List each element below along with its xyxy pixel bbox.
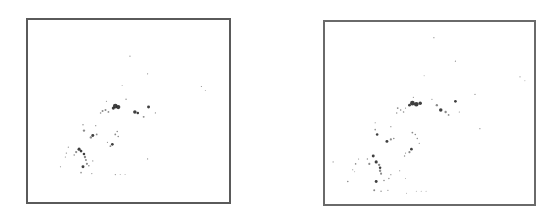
data-point [116, 131, 118, 133]
data-point [413, 97, 414, 98]
data-point [83, 153, 86, 156]
data-point [408, 151, 410, 153]
scatter-plot-left [28, 20, 229, 202]
data-point [106, 101, 107, 102]
data-point [380, 191, 381, 192]
data-point [375, 122, 376, 123]
data-point [90, 136, 92, 138]
data-point [368, 163, 370, 165]
data-point [388, 178, 389, 179]
data-point [92, 160, 93, 161]
data-point [125, 174, 126, 175]
data-point [117, 136, 119, 138]
data-point [354, 171, 355, 172]
data-point [133, 110, 137, 114]
data-point [408, 104, 411, 107]
data-point [205, 90, 206, 91]
data-point [333, 161, 334, 162]
data-point [82, 124, 83, 125]
data-point [102, 110, 104, 112]
data-point [75, 151, 77, 153]
data-point [417, 138, 418, 139]
data-point [419, 143, 420, 144]
data-point [88, 165, 90, 167]
data-point [65, 156, 66, 157]
data-point [147, 73, 148, 74]
data-point [379, 170, 381, 172]
data-point [436, 104, 438, 106]
data-point [387, 190, 388, 191]
data-point [433, 37, 434, 38]
scatter-panel-left [26, 18, 231, 204]
data-point [404, 155, 405, 156]
data-point [83, 129, 85, 131]
data-point [125, 99, 126, 100]
data-point [479, 128, 480, 129]
data-point [403, 111, 405, 113]
data-point [367, 158, 368, 159]
data-point [405, 153, 406, 154]
data-point [86, 163, 88, 165]
data-point [105, 109, 107, 111]
scatter-panel-right [323, 20, 536, 206]
data-point [372, 155, 375, 158]
data-point [155, 112, 156, 113]
data-point [410, 148, 413, 151]
data-point [96, 134, 98, 136]
data-point [524, 80, 525, 81]
data-point [459, 111, 460, 112]
data-point [95, 125, 96, 126]
data-point [91, 134, 94, 137]
data-point [444, 111, 446, 113]
data-point [406, 193, 407, 194]
data-point [405, 178, 406, 179]
data-point [418, 101, 422, 105]
data-point [439, 108, 443, 112]
data-point [68, 147, 69, 148]
data-point [378, 164, 380, 166]
data-point [347, 181, 349, 183]
data-point [100, 112, 102, 114]
data-point [421, 191, 422, 192]
data-point [73, 154, 75, 156]
data-point [519, 76, 520, 77]
data-point [396, 112, 397, 113]
data-point [82, 165, 85, 168]
data-point [376, 133, 379, 136]
data-point [122, 85, 123, 86]
data-point [379, 167, 382, 170]
data-point [91, 173, 92, 174]
data-point [375, 160, 378, 163]
data-point [414, 102, 419, 107]
data-point [426, 191, 427, 192]
data-point [405, 108, 406, 109]
data-point [129, 56, 130, 57]
data-point [66, 152, 67, 153]
data-point [383, 180, 385, 182]
data-point [147, 158, 148, 159]
data-point [397, 107, 399, 109]
data-point [393, 138, 395, 140]
data-point [107, 142, 108, 143]
data-point [120, 174, 121, 175]
data-point [390, 138, 392, 140]
data-point [80, 150, 83, 153]
data-point [399, 170, 400, 171]
data-point [431, 99, 432, 100]
data-point [114, 134, 116, 136]
data-point [373, 189, 375, 191]
data-point [380, 173, 382, 175]
data-point [112, 106, 115, 109]
data-point [110, 145, 112, 147]
data-point [374, 129, 376, 131]
data-point [400, 109, 402, 111]
data-point [416, 191, 417, 192]
data-point [147, 106, 150, 109]
data-point [375, 180, 378, 183]
data-point [115, 174, 116, 175]
data-point [84, 156, 86, 158]
data-point [424, 75, 425, 76]
data-point [60, 166, 61, 167]
data-point [80, 172, 82, 174]
data-point [358, 158, 359, 159]
